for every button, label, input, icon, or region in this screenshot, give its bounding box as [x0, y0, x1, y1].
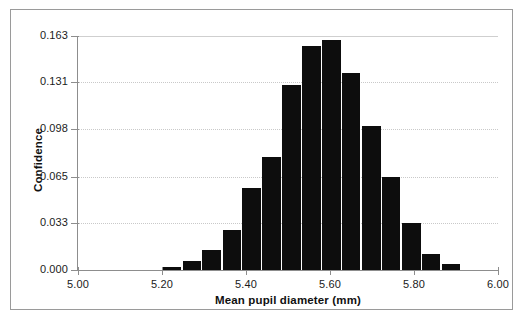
- histogram-bar: [382, 177, 400, 270]
- histogram-bar: [202, 250, 221, 270]
- histogram-bar: [342, 73, 360, 270]
- histogram-bar: [223, 230, 241, 270]
- x-tick-label: 5.60: [300, 278, 360, 290]
- histogram-bar: [183, 261, 201, 270]
- histogram-bar: [442, 264, 461, 270]
- x-axis-line: [77, 270, 499, 271]
- histogram-bar: [322, 40, 341, 270]
- histogram-figure: 0.0000.0330.0650.0980.1310.163 5.005.205…: [0, 0, 524, 321]
- histogram-bar: [163, 267, 182, 270]
- histogram-bar: [362, 126, 381, 270]
- y-axis-title: Confidence: [32, 80, 44, 240]
- histogram-bars: [78, 36, 498, 270]
- x-tick-label: 5.00: [48, 278, 108, 290]
- x-tick-label: 5.20: [132, 278, 192, 290]
- histogram-bar: [302, 46, 320, 270]
- histogram-bar: [262, 157, 280, 270]
- x-tick-label: 6.00: [468, 278, 524, 290]
- x-tick-mark: [498, 267, 499, 275]
- x-tick-label: 5.40: [216, 278, 276, 290]
- histogram-bar: [402, 223, 421, 270]
- histogram-bar: [422, 254, 440, 270]
- histogram-bar: [242, 188, 261, 270]
- histogram-bar: [282, 85, 301, 270]
- y-axis-title-wrapper: Confidence: [24, 36, 44, 270]
- x-axis-title: Mean pupil diameter (mm): [78, 294, 498, 306]
- x-tick-label: 5.80: [384, 278, 444, 290]
